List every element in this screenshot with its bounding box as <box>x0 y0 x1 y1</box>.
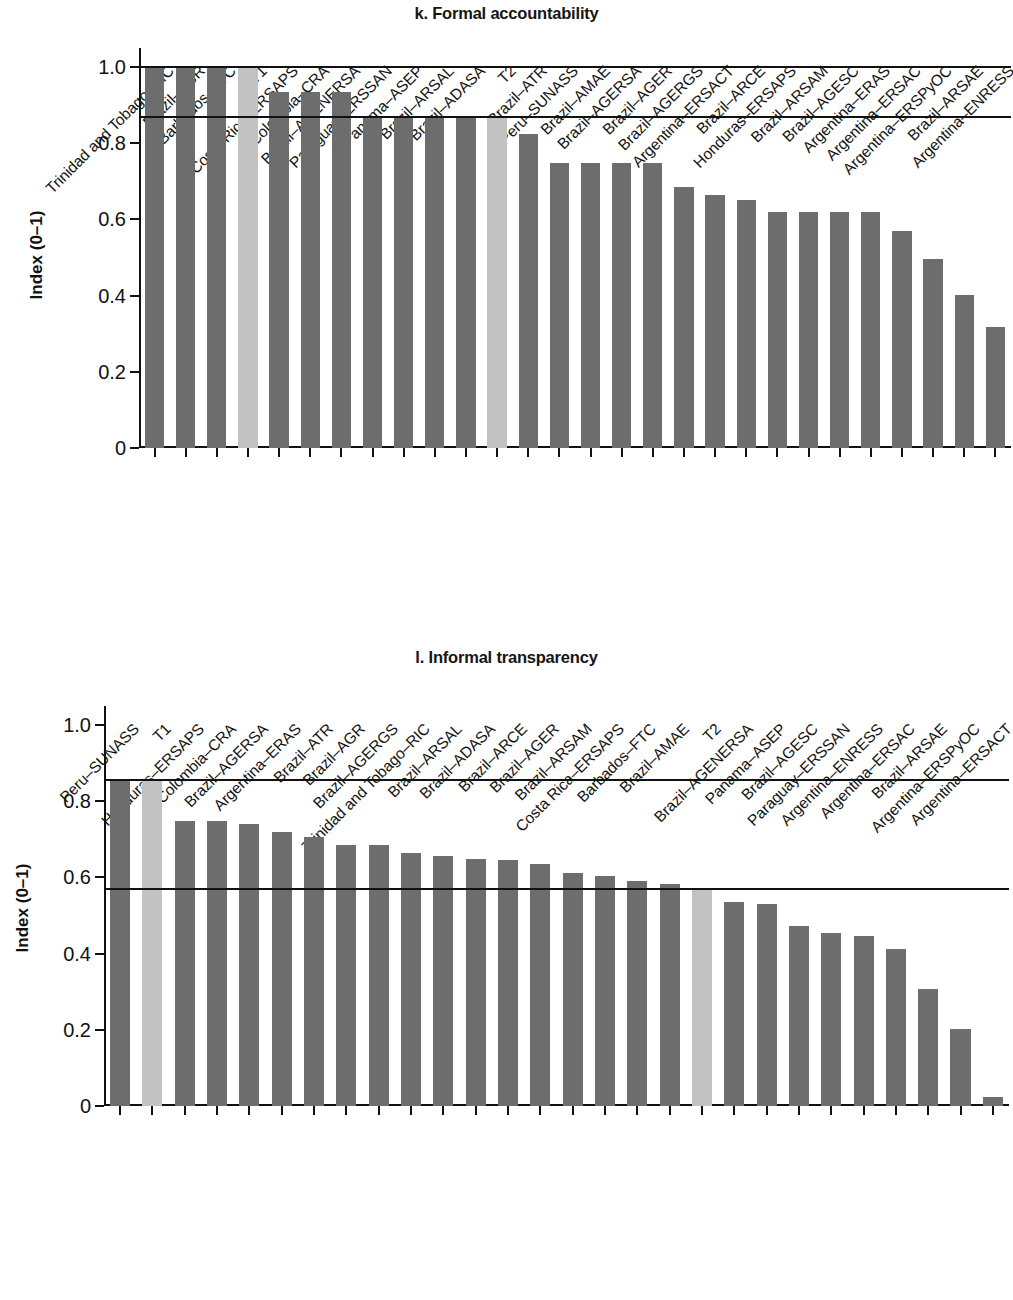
x-tick <box>154 448 156 457</box>
bar <box>799 212 818 448</box>
y-tick-plot-l <box>95 800 104 802</box>
bar <box>737 200 756 448</box>
bar <box>110 780 130 1106</box>
bar <box>674 187 693 448</box>
y-tick-plot-l <box>95 953 104 955</box>
x-tick <box>992 1106 994 1115</box>
x-tick <box>345 1106 347 1115</box>
x-tick <box>475 1106 477 1115</box>
bar <box>238 67 257 448</box>
bar <box>394 117 413 448</box>
bar <box>692 889 712 1106</box>
bar <box>550 163 569 448</box>
bar <box>369 845 389 1106</box>
chart-title-l: l. Informal transparency <box>0 648 1013 667</box>
x-tick <box>119 1106 121 1115</box>
bar <box>487 117 506 448</box>
x-tick <box>313 1106 315 1115</box>
y-tick-label: 0.6 <box>98 208 126 231</box>
bar <box>955 295 974 448</box>
x-tick <box>901 448 903 457</box>
x-tick <box>714 448 716 457</box>
x-tick <box>378 1106 380 1115</box>
y-tick-plot-k <box>130 371 139 373</box>
bar <box>768 212 787 448</box>
x-tick <box>927 1106 929 1115</box>
x-tick <box>839 448 841 457</box>
bar <box>530 864 550 1106</box>
bar <box>724 902 744 1106</box>
bar <box>301 92 320 448</box>
bar <box>175 821 195 1106</box>
bar <box>304 837 324 1106</box>
x-tick <box>496 448 498 457</box>
y-tick-plot-l <box>95 1029 104 1031</box>
x-tick <box>281 1106 283 1115</box>
y-tick-plot-l <box>95 1105 104 1107</box>
bar <box>861 212 880 448</box>
bar <box>854 936 874 1106</box>
bar <box>519 134 538 448</box>
x-tick <box>558 448 560 457</box>
x-tick <box>776 448 778 457</box>
reference-line-t1 <box>139 66 1011 68</box>
x-tick <box>960 1106 962 1115</box>
bar <box>950 1029 970 1106</box>
y-tick-label: 0 <box>80 1095 91 1118</box>
y-axis-label-l: Index (0–1) <box>13 838 33 978</box>
y-tick-label: 0.8 <box>63 790 91 813</box>
bar <box>272 832 292 1106</box>
x-tick <box>808 448 810 457</box>
bar <box>456 117 475 448</box>
y-tick-label: 1.0 <box>98 56 126 79</box>
x-tick <box>863 1106 865 1115</box>
x-tick <box>278 448 280 457</box>
y-tick-label: 0.4 <box>63 942 91 965</box>
x-tick <box>151 1106 153 1115</box>
bar <box>612 163 631 448</box>
bar <box>176 67 195 448</box>
x-tick <box>185 448 187 457</box>
y-tick-label: 0.8 <box>98 132 126 155</box>
bar <box>595 876 615 1106</box>
y-tick-label: 0.4 <box>98 284 126 307</box>
bar <box>983 1097 1003 1106</box>
bar <box>142 780 162 1106</box>
chart-panel-formal-accountability: k. Formal accountability Index (0–1) Tri… <box>0 0 1013 640</box>
plot-area-k: Trinidad and Tobago–RICBrazil–AGRBarbado… <box>139 48 1011 448</box>
y-tick-label: 0.6 <box>63 866 91 889</box>
x-tick <box>636 1106 638 1115</box>
x-tick <box>590 448 592 457</box>
bar <box>207 821 227 1106</box>
reference-line-t1 <box>104 779 1009 781</box>
y-tick-plot-l <box>95 724 104 726</box>
x-tick <box>507 1106 509 1115</box>
plot-area-l: Peru–SUNASST1Honduras–ERSAPSColombia–CRA… <box>104 706 1009 1106</box>
x-tick <box>621 448 623 457</box>
x-tick <box>442 1106 444 1115</box>
bar <box>757 904 777 1106</box>
bar <box>207 67 226 448</box>
reference-line-t2 <box>104 888 1009 890</box>
x-tick <box>870 448 872 457</box>
bar <box>789 926 809 1106</box>
bar <box>923 259 942 448</box>
y-tick-label: 0.2 <box>98 360 126 383</box>
x-tick <box>895 1106 897 1115</box>
y-axis-label-k: Index (0–1) <box>27 185 47 325</box>
y-tick-plot-k <box>130 66 139 68</box>
bar <box>886 949 906 1106</box>
x-tick <box>669 1106 671 1115</box>
bar <box>336 845 356 1106</box>
y-tick-label: 0 <box>115 437 126 460</box>
bar <box>660 884 680 1106</box>
x-tick <box>994 448 996 457</box>
bar <box>918 989 938 1106</box>
y-tick-plot-k <box>130 447 139 449</box>
x-tick <box>216 448 218 457</box>
x-tick <box>652 448 654 457</box>
bar <box>986 327 1005 448</box>
bar <box>363 117 382 448</box>
x-tick <box>798 1106 800 1115</box>
chart-panel-informal-transparency: l. Informal transparency Index (0–1) Per… <box>0 640 1013 1300</box>
